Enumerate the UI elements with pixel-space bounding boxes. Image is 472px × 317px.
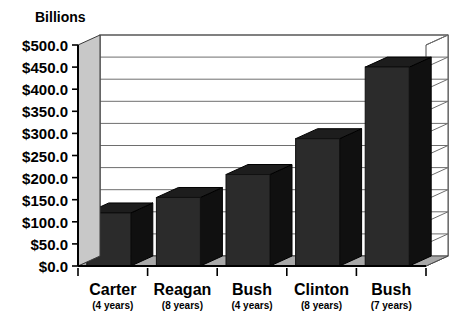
bar-front-face [296, 139, 340, 266]
category-label-2: Reagan [154, 281, 212, 298]
y-tick-label-250: $250.0 [22, 148, 68, 165]
y-tick-label-100: $100.0 [22, 214, 68, 231]
category-label-5: Bush [371, 281, 411, 298]
category-label-3: Bush [232, 281, 272, 298]
bar-side-face [409, 57, 431, 266]
bar-front-face [365, 67, 409, 266]
bar-side-face [270, 165, 292, 266]
bar-front-face [156, 197, 200, 266]
chart-canvas: $500.0$450.0$400.0$350.0$300.0$250.0$200… [0, 0, 472, 317]
y-tick-label-200: $200.0 [22, 170, 68, 187]
y-tick-label-300: $300.0 [22, 125, 68, 142]
category-sublabel-1: (4 years) [92, 300, 133, 311]
bar-5 [365, 57, 431, 266]
bar-side-face [340, 129, 362, 266]
y-tick-label-150: $150.0 [22, 192, 68, 209]
y-tick-label-350: $350.0 [22, 103, 68, 120]
bar-side-face [131, 203, 153, 266]
y-tick-label-400: $400.0 [22, 81, 68, 98]
category-sublabel-4: (8 years) [301, 300, 342, 311]
y-tick-label-50: $50.0 [30, 236, 68, 253]
bar-chart: $500.0$450.0$400.0$350.0$300.0$250.0$200… [0, 0, 472, 317]
axis-unit-title: Billions [35, 9, 86, 25]
category-label-4: Clinton [294, 281, 349, 298]
x-axis-tick-marks [78, 268, 426, 276]
bar-front-face [226, 175, 270, 266]
y-tick-label-450: $450.0 [22, 59, 68, 76]
category-sublabel-5: (7 years) [371, 300, 412, 311]
x-axis-category-labels: Carter(4 years)Reagan(8 years)Bush(4 yea… [89, 281, 412, 311]
category-sublabel-3: (4 years) [231, 300, 272, 311]
axis-slab [78, 35, 100, 266]
y-tick-label-500: $500.0 [22, 37, 68, 54]
bar-3 [226, 165, 292, 266]
y-tick-label-0: $0.0 [39, 258, 68, 275]
bar-4 [296, 129, 362, 266]
y-axis-tick-labels: $500.0$450.0$400.0$350.0$300.0$250.0$200… [22, 37, 68, 275]
bar-2 [156, 187, 222, 266]
bar-side-face [200, 187, 222, 266]
category-label-1: Carter [89, 281, 136, 298]
category-sublabel-2: (8 years) [162, 300, 203, 311]
